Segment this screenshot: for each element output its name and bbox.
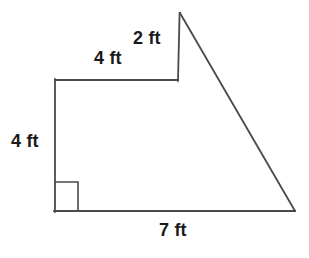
dimension-label-bottom-7ft: 7 ft — [159, 220, 187, 240]
edge-notch-vertical — [178, 13, 180, 81]
dimension-label-left-4ft: 4 ft — [11, 131, 39, 151]
geometry-figure: 4 ft 2 ft 4 ft 7 ft — [0, 0, 309, 258]
dimension-label-notch-2ft: 2 ft — [133, 28, 161, 48]
edge-hypotenuse — [180, 13, 295, 211]
right-angle-marker — [55, 182, 78, 211]
dimension-label-top-4ft: 4 ft — [94, 48, 122, 68]
